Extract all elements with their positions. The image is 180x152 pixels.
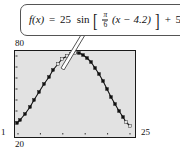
callout-pointer-tail (58, 30, 88, 70)
x-axis-min-label: 20 (15, 140, 24, 149)
equation-text: f(x) = 25 sin [ π 6 (x − 4.2) ] + 50 (29, 11, 180, 30)
y-axis-ticks (16, 56, 18, 122)
y-axis-min-label: 1 (1, 128, 6, 137)
equation-callout: f(x) = 25 sin [ π 6 (x − 4.2) ] + 50 (20, 4, 180, 36)
equation-equals: = (49, 13, 55, 25)
equation-amplitude: 25 (60, 13, 71, 25)
equation-function: sin (77, 13, 90, 25)
x-axis-ticks (18, 133, 130, 135)
equation-bracket-close: ] (154, 10, 159, 29)
y-axis-max-label: 80 (15, 39, 24, 48)
x-axis-max-label: 25 (141, 128, 150, 137)
equation-vertical-shift: 50 (176, 13, 180, 25)
sine-graph-figure: f(x) = 25 sin [ π 6 (x − 4.2) ] + 50 80 … (0, 0, 180, 152)
fraction-denominator: 6 (102, 20, 108, 28)
equation-bracket-open: [ (93, 10, 98, 29)
equation-lhs: f(x) (29, 13, 44, 25)
equation-fraction: π 6 (102, 11, 108, 28)
equation-plus: + (165, 13, 171, 25)
equation-inner: (x − 4.2) (112, 13, 151, 25)
